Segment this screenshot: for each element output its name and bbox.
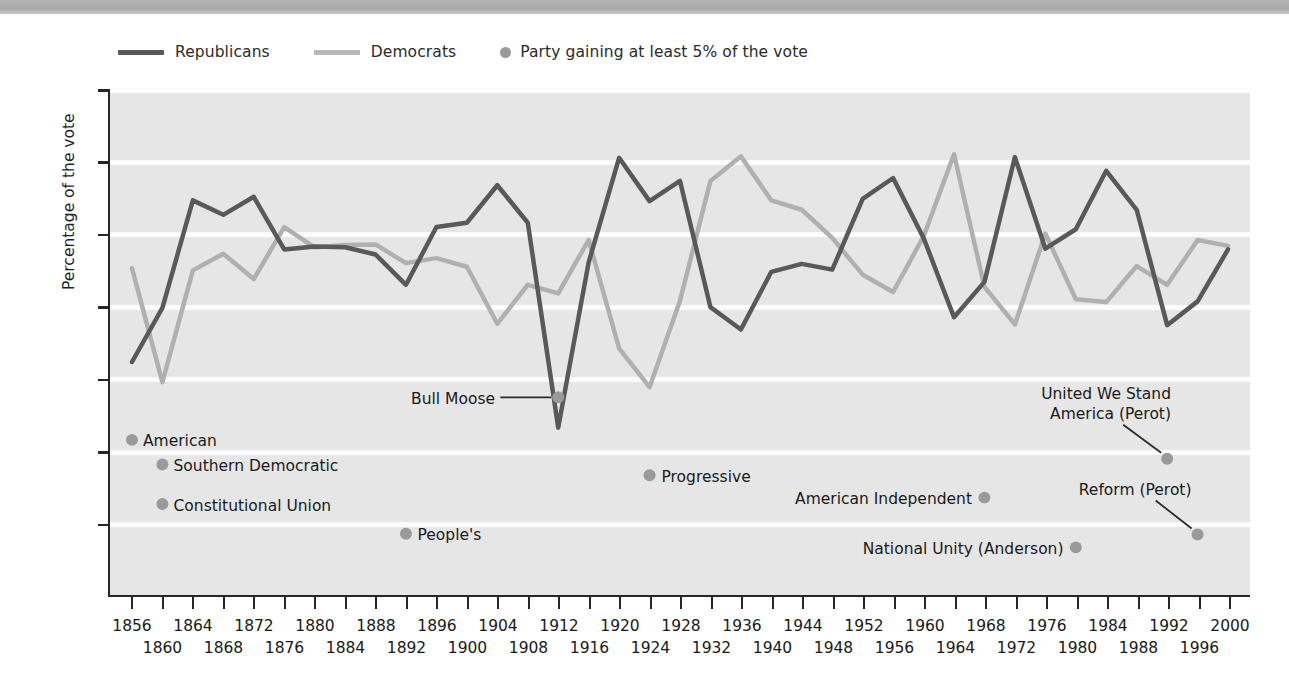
y-tick-mark-10: [98, 524, 110, 527]
x-tick-label-1920: 1920: [585, 617, 655, 635]
x-tick-mark-1860: [162, 595, 164, 609]
x-tick-mark-1864: [192, 595, 194, 609]
legend-label-third-party: Party gaining at least 5% of the vote: [520, 43, 808, 61]
x-tick-label-1892: 1892: [372, 639, 442, 657]
x-tick-mark-1908: [528, 595, 530, 609]
y-tick-mark-60: [98, 161, 110, 164]
x-tick-label-1984: 1984: [1073, 617, 1143, 635]
x-tick-label-1900: 1900: [433, 639, 503, 657]
plot-area: Percentage of the vote 10203040506070 18…: [108, 90, 1250, 597]
x-tick-label-1876: 1876: [250, 639, 320, 657]
x-tick-mark-1912: [558, 595, 560, 609]
x-tick-label-1956: 1956: [860, 639, 930, 657]
x-tick-label-1960: 1960: [890, 617, 960, 635]
x-tick-mark-1984: [1107, 595, 1109, 609]
third-party-dot-1856: [126, 434, 138, 446]
x-tick-label-1904: 1904: [463, 617, 533, 635]
x-tick-label-1928: 1928: [646, 617, 716, 635]
third-party-dot-1860: [156, 458, 168, 470]
leader-line-united-we-stand: [1123, 425, 1161, 453]
x-tick-label-1992: 1992: [1134, 617, 1204, 635]
leader-line-reform-perot: [1156, 501, 1192, 529]
annotation-american: American: [143, 431, 217, 451]
x-tick-mark-1892: [406, 595, 408, 609]
republicans-line-swatch-icon: [118, 50, 164, 55]
x-tick-mark-1944: [802, 595, 804, 609]
x-tick-label-1940: 1940: [738, 639, 808, 657]
legend-label-republicans: Republicans: [175, 43, 270, 61]
annotation-peoples: People's: [418, 525, 482, 545]
x-tick-label-1896: 1896: [402, 617, 472, 635]
x-tick-mark-1976: [1046, 595, 1048, 609]
x-tick-mark-1876: [284, 595, 286, 609]
x-tick-mark-1936: [741, 595, 743, 609]
chart-lines: [110, 90, 1250, 595]
x-tick-label-1884: 1884: [311, 639, 381, 657]
x-tick-mark-1972: [1016, 595, 1018, 609]
x-tick-mark-1896: [436, 595, 438, 609]
x-tick-label-1996: 1996: [1165, 639, 1235, 657]
x-tick-label-1888: 1888: [341, 617, 411, 635]
legend-item-third-party: Party gaining at least 5% of the vote: [500, 43, 808, 61]
x-tick-label-2000: 2000: [1195, 617, 1265, 635]
x-tick-label-1932: 1932: [677, 639, 747, 657]
x-tick-mark-1964: [955, 595, 957, 609]
x-tick-label-1868: 1868: [189, 639, 259, 657]
y-tick-mark-40: [98, 306, 110, 309]
x-tick-mark-1968: [985, 595, 987, 609]
x-tick-label-1908: 1908: [494, 639, 564, 657]
third-party-dot-1980: [1070, 541, 1082, 553]
x-tick-label-1860: 1860: [128, 639, 198, 657]
x-tick-label-1948: 1948: [799, 639, 869, 657]
x-tick-mark-1928: [680, 595, 682, 609]
democrats-line-swatch-icon: [314, 50, 360, 55]
third-party-dot-1924: [644, 469, 656, 481]
annotation-progressive: Progressive: [662, 467, 751, 487]
election-vote-share-figure: Republicans Democrats Party gaining at l…: [0, 14, 1289, 679]
third-party-dot-1968: [978, 492, 990, 504]
legend-item-democrats: Democrats: [314, 43, 457, 61]
x-tick-mark-1996: [1199, 595, 1201, 609]
x-tick-label-1864: 1864: [158, 617, 228, 635]
annotation-national-unity: National Unity (Anderson): [863, 539, 1064, 559]
x-tick-label-1936: 1936: [707, 617, 777, 635]
x-tick-label-1872: 1872: [219, 617, 289, 635]
y-tick-mark-20: [98, 451, 110, 454]
x-tick-label-1944: 1944: [768, 617, 838, 635]
chart-legend: Republicans Democrats Party gaining at l…: [118, 40, 852, 64]
x-tick-mark-1952: [863, 595, 865, 609]
annotation-american-independent: American Independent: [795, 489, 972, 509]
x-tick-mark-1900: [467, 595, 469, 609]
annotation-united-we-stand-line1: United We Stand: [1041, 384, 1171, 404]
x-tick-mark-1960: [924, 595, 926, 609]
x-tick-mark-1888: [375, 595, 377, 609]
annotation-reform-perot: Reform (Perot): [1079, 480, 1192, 500]
x-tick-mark-1940: [772, 595, 774, 609]
third-party-dot-swatch-icon: [500, 47, 511, 58]
x-tick-mark-2000: [1229, 595, 1231, 609]
scan-artifact-bar: [0, 0, 1289, 14]
annotation-southern-democratic: Southern Democratic: [174, 456, 339, 476]
third-party-dot-1996: [1192, 528, 1204, 540]
x-tick-mark-1916: [589, 595, 591, 609]
x-tick-mark-1872: [253, 595, 255, 609]
third-party-dot-1892: [400, 528, 412, 540]
legend-label-democrats: Democrats: [371, 43, 457, 61]
x-tick-mark-1868: [223, 595, 225, 609]
y-tick-mark-30: [98, 379, 110, 382]
x-tick-label-1968: 1968: [951, 617, 1021, 635]
annotation-constitutional-union: Constitutional Union: [174, 496, 332, 516]
x-tick-label-1924: 1924: [616, 639, 686, 657]
x-tick-mark-1920: [619, 595, 621, 609]
legend-item-republicans: Republicans: [118, 43, 270, 61]
x-tick-mark-1884: [345, 595, 347, 609]
y-axis-title: Percentage of the vote: [60, 113, 78, 290]
x-tick-label-1880: 1880: [280, 617, 350, 635]
x-tick-mark-1880: [314, 595, 316, 609]
annotation-united-we-stand-line2: America (Perot): [1050, 404, 1171, 424]
third-party-dot-1912: [552, 391, 564, 403]
x-tick-mark-1948: [833, 595, 835, 609]
x-tick-mark-1980: [1077, 595, 1079, 609]
x-tick-label-1988: 1988: [1104, 639, 1174, 657]
x-tick-label-1980: 1980: [1043, 639, 1113, 657]
